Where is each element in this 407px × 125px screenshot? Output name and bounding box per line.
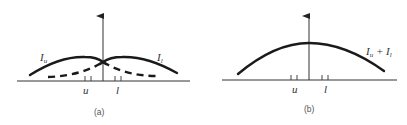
panel-a-dashed-Iu-tail — [103, 62, 157, 76]
diagram-canvas: Iu Il u l (a) Iu + Il u l (b) — [0, 0, 407, 125]
panel-b-label-sum: Iu + Il — [365, 45, 392, 59]
panel-a-label-u: u — [83, 84, 89, 96]
panel-a-curve-Il — [100, 57, 177, 73]
panel-a-label-Il: Il — [156, 51, 163, 65]
panel-b: Iu + Il u l (b) — [222, 16, 397, 114]
panel-a-dashed-Il-tail — [48, 62, 103, 77]
panel-a-label-Iu: Iu — [39, 51, 48, 65]
panel-b-curve-sum — [238, 43, 384, 74]
panel-b-label-l: l — [324, 83, 327, 95]
panel-b-label-u: u — [292, 83, 298, 95]
panel-b-caption: (b) — [304, 104, 315, 114]
panel-a: Iu Il u l (a) — [17, 16, 190, 117]
panel-a-caption: (a) — [94, 107, 105, 117]
panel-a-label-l: l — [116, 84, 119, 96]
